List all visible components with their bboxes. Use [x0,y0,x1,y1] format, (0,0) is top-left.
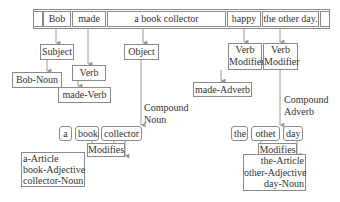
word-collector: collector [101,126,142,141]
word-day: day [283,126,303,141]
object-node: Object [124,44,159,60]
subject-node: Subject [40,44,74,60]
sentence-segment-start [33,11,43,27]
made-verb-node: made-Verb [58,87,111,103]
pos-box-left: a-Article book-Adjective collector-Noun [21,152,85,187]
modifies-label-left: Modifies [87,143,125,157]
pos-box-right: the-Article other-Adjective day-Noun [243,154,306,191]
sentence-segment-happy: happy [227,11,261,27]
sentence-segment-made: made [72,11,106,27]
sentence-segment-object: a book collector [107,11,226,27]
word-a: a [59,126,72,141]
word-othet: othet [251,126,280,141]
sentence-segment-end [320,11,330,27]
made-adverb-node: made-Adverb [193,82,252,97]
word-the: the [231,126,248,141]
compound-noun-label: Compound Noun [144,102,188,126]
verb-modifier-node-2: Verb Modifier [263,43,298,70]
word-book: book [75,126,99,141]
sentence-segment-bob: Bob [43,11,71,27]
verb-node: Verb [72,65,106,81]
sentence-segment-other-day: the other day. [262,11,319,27]
compound-adverb-label: Compound Adverb [284,94,328,118]
verb-modifier-node-1: Verb Modifier [228,43,262,70]
bob-noun-node: Bob-Noun [12,72,62,88]
